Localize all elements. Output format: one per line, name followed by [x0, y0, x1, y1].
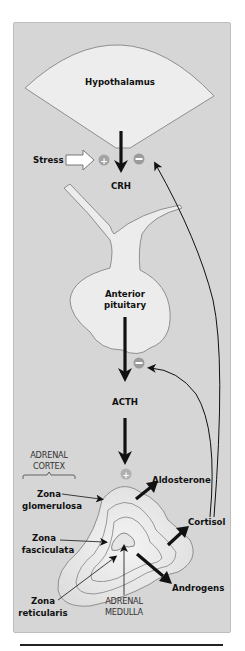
- aldosterone-label: Aldosterone: [152, 475, 211, 485]
- hypothalamus-label: Hypothalamus: [85, 77, 155, 87]
- crh-label: CRH: [111, 181, 131, 191]
- cortisol-feedback-to-pituitary: [151, 368, 212, 517]
- zona-glomerulosa-label-line1: Zona: [37, 489, 61, 499]
- hpa-axis-diagram: Hypothalamus Stress + CRH Anterior pitui…: [0, 0, 245, 651]
- svg-text:+: +: [100, 156, 108, 166]
- adrenal-medulla-label-line1: ADRENAL: [105, 596, 143, 606]
- androgens-label: Androgens: [172, 583, 224, 593]
- crh-minus-sign: [134, 154, 145, 165]
- acth-label: ACTH: [112, 397, 138, 407]
- zona-glomerulosa-pointer: [62, 494, 100, 499]
- pituitary-shape: [64, 184, 182, 354]
- cortisol-feedback-to-hypothalamus: [156, 165, 220, 517]
- stress-label: Stress: [33, 155, 64, 165]
- svg-text:+: +: [122, 470, 130, 480]
- pituitary-label-line1: Anterior: [105, 289, 146, 299]
- zona-reticularis-label-line1: Zona: [31, 596, 55, 606]
- stress-plus-sign: +: [99, 155, 110, 166]
- adrenal-cortex-label-line1: ADRENAL: [30, 450, 68, 460]
- zona-glomerulosa-label-line2: glomerulosa: [22, 501, 82, 511]
- cortisol-label: Cortisol: [188, 517, 226, 527]
- adrenal-cortex-brace: [23, 472, 75, 479]
- adrenal-cortex-label-line2: CORTEX: [33, 461, 65, 471]
- zona-reticularis-label-line2: reticularis: [18, 608, 67, 618]
- acth-minus-sign: [134, 358, 145, 369]
- bottom-divider: [20, 644, 223, 646]
- stress-arrow: [66, 150, 94, 170]
- adrenal-medulla-label-line2: MEDULLA: [105, 607, 144, 617]
- adrenal-plus-sign: +: [121, 469, 132, 480]
- zona-fasciculata-label-line1: Zona: [32, 533, 56, 543]
- pituitary-label-line2: pituitary: [104, 300, 146, 310]
- zona-fasciculata-label-line2: fasciculata: [22, 545, 75, 555]
